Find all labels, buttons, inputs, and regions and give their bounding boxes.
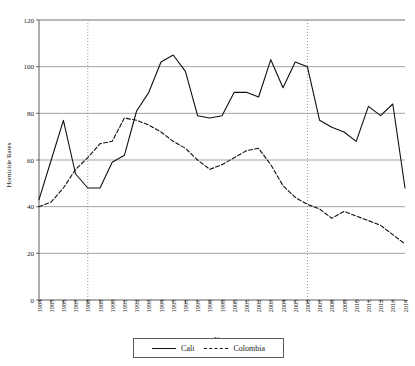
x-tick-label-1992: 1992 <box>133 300 140 313</box>
x-tick-label-2001: 2001 <box>243 300 250 313</box>
x-tick-label-1989: 1989 <box>97 300 104 313</box>
y-tick-label-20: 20 <box>27 250 35 258</box>
x-tick-label-1997: 1997 <box>194 299 201 313</box>
x-tick-label-1999: 1999 <box>219 300 226 313</box>
legend-label-colombia: Colombia <box>233 344 265 353</box>
y-tick-group: 020406080100120 <box>24 17 40 305</box>
x-tick-label-1998: 1998 <box>206 300 213 313</box>
x-tick-label-2014: 2014 <box>402 299 409 313</box>
y-tick-label-100: 100 <box>24 63 35 71</box>
x-tick-label-2000: 2000 <box>231 300 238 313</box>
x-tick-label-1988: 1988 <box>84 300 91 313</box>
x-tick-label-1990: 1990 <box>109 300 116 313</box>
x-tick-label-1993: 1993 <box>145 300 152 313</box>
x-tick-label-2011: 2011 <box>365 300 372 313</box>
legend-item-colombia: Colombia <box>204 344 265 353</box>
x-tick-label-1987: 1987 <box>72 299 79 313</box>
x-tick-label-2004: 2004 <box>280 299 287 313</box>
legend-label-cali: Cali <box>181 344 194 353</box>
series-group <box>39 55 405 244</box>
x-tick-label-2002: 2002 <box>255 300 262 313</box>
y-tick-label-0: 0 <box>31 297 35 305</box>
x-tick-label-1984: 1984 <box>36 299 43 313</box>
x-tick-label-1994: 1994 <box>158 299 165 313</box>
y-tick-label-40: 40 <box>27 203 35 211</box>
x-tick-label-1996: 1996 <box>182 299 189 313</box>
legend-swatch-dashed-icon <box>204 348 228 349</box>
series-line-cali <box>39 55 405 200</box>
x-tick-label-1986: 1986 <box>60 299 67 313</box>
x-tick-label-2010: 2010 <box>353 300 360 313</box>
y-tick-label-80: 80 <box>27 110 35 118</box>
x-tick-label-2009: 2009 <box>341 300 348 313</box>
x-tick-label-2003: 2003 <box>267 300 274 313</box>
x-tick-label-2008: 2008 <box>328 300 335 313</box>
x-tick-label-1991: 1991 <box>121 300 128 313</box>
legend-swatch-solid-icon <box>152 348 176 349</box>
line-chart-plot: 020406080100120 198419851986198719881989… <box>0 0 415 366</box>
y-axis-title: Homicide Rates <box>5 142 13 187</box>
homicide-rates-chart-figure: 020406080100120 198419851986198719881989… <box>0 0 415 366</box>
x-tick-label-2013: 2013 <box>389 300 396 313</box>
x-tick-label-2005: 2005 <box>292 300 299 313</box>
x-tick-label-1985: 1985 <box>48 300 55 313</box>
y-tick-label-60: 60 <box>27 157 35 165</box>
x-tick-label-1995: 1995 <box>170 300 177 313</box>
chart-legend: Cali Colombia <box>133 338 284 358</box>
x-tick-group: 1984198519861987198819891990199119921993… <box>36 299 409 313</box>
legend-item-cali: Cali <box>152 344 194 353</box>
y-tick-label-120: 120 <box>24 17 35 25</box>
x-tick-label-2012: 2012 <box>377 300 384 313</box>
x-tick-label-2006: 2006 <box>304 299 311 313</box>
x-tick-label-2007: 2007 <box>316 299 323 313</box>
